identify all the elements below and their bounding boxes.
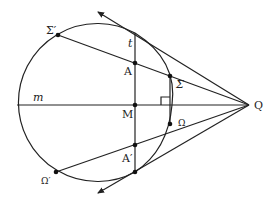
- point-sigma: [168, 74, 173, 79]
- right-angle-marker: [161, 97, 170, 105]
- geometry-diagram: Σ′ t A Σ m M Q Ω A′ Ω′: [0, 0, 278, 204]
- point-omega: [168, 122, 173, 127]
- label-omega: Ω: [178, 118, 185, 128]
- point-A-prime: [133, 143, 138, 148]
- label-m: m: [33, 91, 43, 104]
- label-A-prime: A′: [121, 152, 133, 165]
- point-omega-prime: [54, 170, 59, 175]
- label-sigma: Σ: [175, 78, 184, 91]
- label-omega-prime: Ω′: [41, 176, 51, 186]
- point-A: [133, 61, 138, 66]
- label-sigma-prime: Σ′: [46, 24, 57, 37]
- label-A: A: [123, 65, 133, 78]
- secant-omega: [56, 105, 249, 172]
- point-sigma-prime: [56, 33, 61, 38]
- point-M: [133, 103, 138, 108]
- point-tangent-bottom: [133, 170, 138, 175]
- label-M: M: [122, 108, 133, 121]
- label-t: t: [128, 37, 133, 50]
- label-Q: Q: [254, 99, 263, 112]
